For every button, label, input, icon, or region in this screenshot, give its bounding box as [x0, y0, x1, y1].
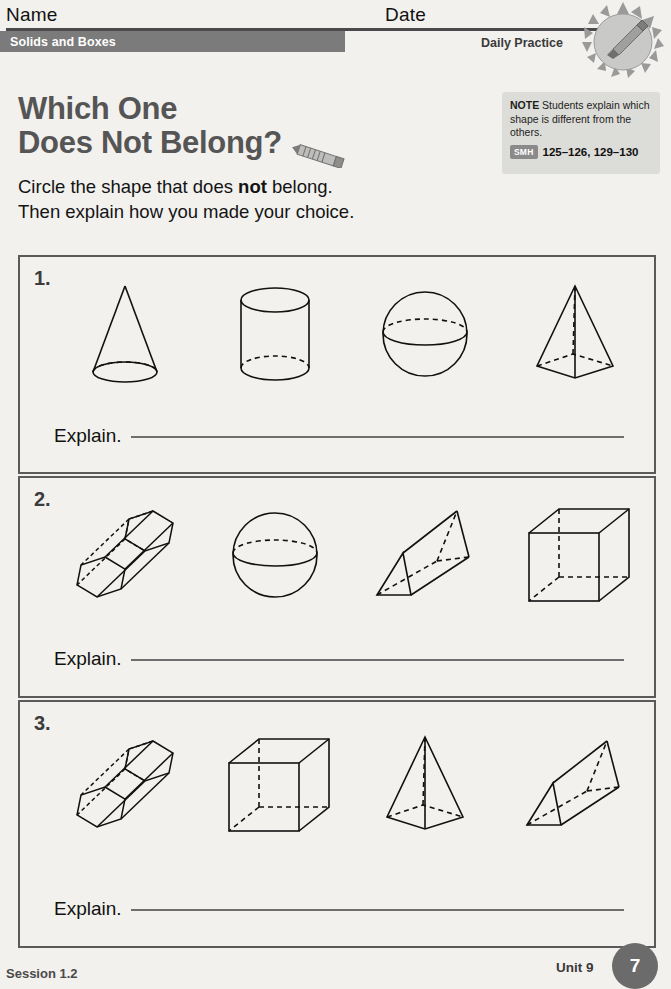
problem-number: 2. [34, 488, 51, 511]
shape-triangular-prism[interactable] [510, 720, 640, 850]
instruction-line1-pre: Circle the shape that does [18, 176, 238, 197]
explain-row: Explain. [54, 898, 624, 920]
lesson-banner-title: Solids and Boxes [10, 35, 116, 49]
smh-pages: 125–126, 129–130 [543, 146, 639, 158]
page-title: Which One Does Not Belong? [18, 92, 282, 160]
shape-row [50, 259, 650, 409]
instructions: Circle the shape that does not belong. T… [18, 174, 354, 224]
note-label: NOTE [510, 99, 539, 111]
shape-square-pyramid[interactable] [510, 269, 640, 399]
pencil-icon [287, 142, 351, 168]
shape-hexagonal-prism[interactable] [60, 490, 190, 620]
shape-triangular-prism[interactable] [360, 490, 490, 620]
lesson-banner: Solids and Boxes [0, 31, 345, 52]
shape-cube[interactable] [210, 720, 340, 850]
shape-cube[interactable] [510, 490, 640, 620]
problem-number: 3. [34, 712, 51, 735]
problem-box: 1. [18, 255, 656, 474]
explain-answer-line[interactable] [131, 659, 624, 661]
name-label: Name [6, 4, 57, 26]
explain-answer-line[interactable] [131, 436, 624, 438]
instruction-line1-post: belong. [267, 176, 333, 197]
page-title-line1: Which One [18, 91, 177, 126]
explain-answer-line[interactable] [131, 909, 624, 911]
shape-row [50, 710, 650, 860]
sun-pencil-badge-icon [580, 2, 666, 78]
instruction-line-1: Circle the shape that does not belong. [18, 174, 354, 199]
date-label: Date [385, 4, 426, 26]
instruction-line1-bold: not [238, 176, 267, 197]
page-title-line2: Does Not Belong? [18, 126, 282, 160]
explain-label: Explain. [54, 425, 122, 447]
instruction-line-2: Then explain how you made your choice. [18, 199, 354, 224]
explain-row: Explain. [54, 648, 624, 670]
shape-sphere[interactable] [210, 490, 340, 620]
shape-hexagonal-prism[interactable] [60, 720, 190, 850]
explain-label: Explain. [54, 648, 122, 670]
shape-row [50, 480, 650, 630]
smh-reference: SMH 125–126, 129–130 [510, 145, 652, 159]
explain-row: Explain. [54, 425, 624, 447]
note-box: NOTE Students explain which shape is dif… [502, 92, 660, 174]
smh-badge: SMH [510, 145, 538, 159]
shape-sphere[interactable] [360, 269, 490, 399]
footer-page-number: 7 [612, 943, 658, 989]
problem-box: 3. [18, 700, 656, 948]
shape-cone[interactable] [60, 269, 190, 399]
explain-label: Explain. [54, 898, 122, 920]
daily-practice-label: Daily Practice [481, 36, 563, 50]
problem-box: 2. [18, 476, 656, 698]
note-text: NOTE Students explain which shape is dif… [510, 99, 652, 140]
footer-session: Session 1.2 [6, 966, 78, 981]
problem-number: 1. [34, 267, 51, 290]
shape-cylinder[interactable] [210, 269, 340, 399]
footer-unit: Unit 9 [556, 960, 594, 975]
shape-square-pyramid[interactable] [360, 720, 490, 850]
